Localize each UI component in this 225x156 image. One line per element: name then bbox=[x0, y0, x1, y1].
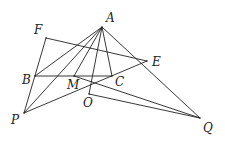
segment-ab bbox=[35, 27, 102, 76]
label-f: F bbox=[33, 23, 43, 37]
segment-ao bbox=[89, 27, 102, 94]
point-q bbox=[199, 117, 201, 119]
label-q: Q bbox=[203, 121, 213, 135]
segment-aq bbox=[102, 27, 200, 118]
point-f bbox=[45, 37, 47, 39]
segment-am bbox=[74, 27, 102, 76]
point-e bbox=[146, 60, 148, 62]
label-o: O bbox=[83, 96, 93, 110]
point-b bbox=[34, 75, 36, 77]
point-c bbox=[111, 75, 113, 77]
label-m: M bbox=[66, 78, 80, 92]
label-e: E bbox=[151, 55, 161, 69]
segment-mq bbox=[74, 76, 200, 118]
point-a bbox=[101, 26, 103, 28]
geometry-figure: AFBMCEOPQ bbox=[0, 0, 225, 156]
label-p: P bbox=[10, 113, 20, 127]
point-m bbox=[73, 75, 75, 77]
point-o bbox=[88, 93, 90, 95]
point-p bbox=[23, 112, 25, 114]
label-b: B bbox=[21, 73, 31, 87]
segment-oq bbox=[89, 94, 200, 118]
label-a: A bbox=[105, 11, 115, 25]
label-c: C bbox=[115, 75, 124, 89]
